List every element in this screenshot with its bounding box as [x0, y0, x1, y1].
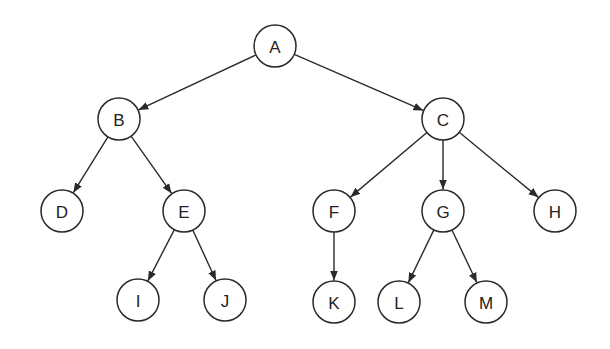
tree-diagram: ABCDEFGHIJKLM: [0, 0, 610, 349]
node-i: I: [117, 279, 159, 321]
node-label: B: [113, 111, 124, 130]
edge-a-c: [294, 54, 423, 110]
node-label: A: [269, 38, 281, 57]
node-g: G: [422, 190, 464, 232]
node-b: B: [98, 98, 140, 140]
edge-e-j: [193, 230, 216, 280]
node-j: J: [204, 279, 246, 321]
edges-layer: [73, 54, 538, 282]
edge-b-d: [73, 137, 108, 193]
node-a: A: [254, 25, 296, 67]
node-label: K: [328, 294, 340, 313]
node-l: L: [378, 281, 420, 323]
node-label: J: [221, 292, 230, 311]
node-label: L: [394, 294, 403, 313]
node-label: D: [56, 203, 68, 222]
node-h: H: [534, 190, 576, 232]
edge-c-f: [350, 133, 427, 198]
node-label: I: [136, 292, 141, 311]
edge-a-b: [138, 55, 256, 110]
node-f: F: [313, 190, 355, 232]
node-label: M: [479, 294, 493, 313]
node-m: M: [465, 281, 507, 323]
node-d: D: [41, 190, 83, 232]
node-label: C: [437, 111, 449, 130]
edge-e-i: [148, 230, 174, 281]
edge-g-l: [408, 230, 433, 283]
node-e: E: [163, 190, 205, 232]
node-label: G: [436, 203, 449, 222]
nodes-layer: ABCDEFGHIJKLM: [41, 25, 576, 323]
node-c: C: [422, 98, 464, 140]
node-label: F: [329, 203, 339, 222]
node-k: K: [313, 281, 355, 323]
edge-g-m: [452, 230, 477, 283]
node-label: H: [549, 203, 561, 222]
tree-diagram-svg: ABCDEFGHIJKLM: [0, 0, 610, 349]
edge-b-e: [131, 136, 171, 193]
node-label: E: [178, 203, 189, 222]
edge-c-h: [459, 132, 538, 197]
